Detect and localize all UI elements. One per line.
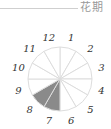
month-label-1: 1 (68, 32, 74, 43)
month-label-3: 3 (98, 62, 104, 73)
month-label-12: 12 (43, 32, 56, 43)
wheel (28, 47, 92, 111)
month-label-7: 7 (46, 115, 53, 126)
month-label-5: 5 (87, 104, 93, 115)
month-label-8: 8 (26, 104, 32, 115)
month-label-10: 10 (12, 62, 25, 73)
month-label-4: 4 (97, 85, 104, 96)
month-label-9: 9 (15, 85, 22, 96)
month-label-2: 2 (86, 43, 93, 54)
bloom-month-wheel: 123456789101112 (0, 0, 111, 129)
month-label-6: 6 (68, 115, 75, 126)
month-label-11: 11 (23, 43, 36, 54)
